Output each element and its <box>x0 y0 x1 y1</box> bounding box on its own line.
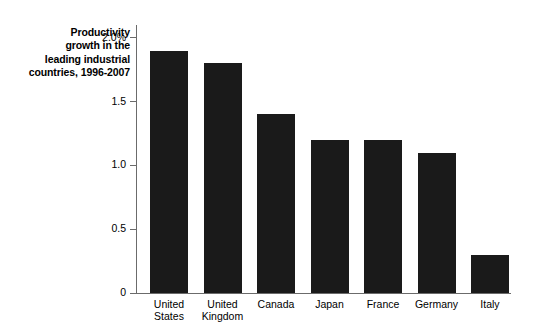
x-axis-line <box>136 293 511 294</box>
chart-title-line-4: countries, 1996-2007 <box>18 66 130 79</box>
y-tick-label: 0.5 <box>111 223 126 234</box>
bar[interactable] <box>418 153 456 293</box>
y-tick-label: 2.0% <box>102 32 126 43</box>
bar[interactable] <box>257 114 295 293</box>
chart-title-line-3: leading industrial <box>18 53 130 66</box>
x-tick-label-line: Kingdom <box>190 311 256 323</box>
bar[interactable] <box>364 140 402 293</box>
x-tick-label-line: Italy <box>457 299 523 311</box>
bar[interactable] <box>204 63 242 293</box>
y-tick-label: 0 <box>120 287 126 298</box>
bar[interactable] <box>311 140 349 293</box>
y-tick-label: 1.5 <box>111 96 126 107</box>
y-tick-label: 1.0 <box>111 159 126 170</box>
bars-layer <box>136 25 511 293</box>
bar[interactable] <box>471 255 509 293</box>
x-tick-label: Italy <box>457 299 523 311</box>
bar[interactable] <box>150 51 188 293</box>
chart-page: Productivity growth in the leading indus… <box>0 0 534 325</box>
